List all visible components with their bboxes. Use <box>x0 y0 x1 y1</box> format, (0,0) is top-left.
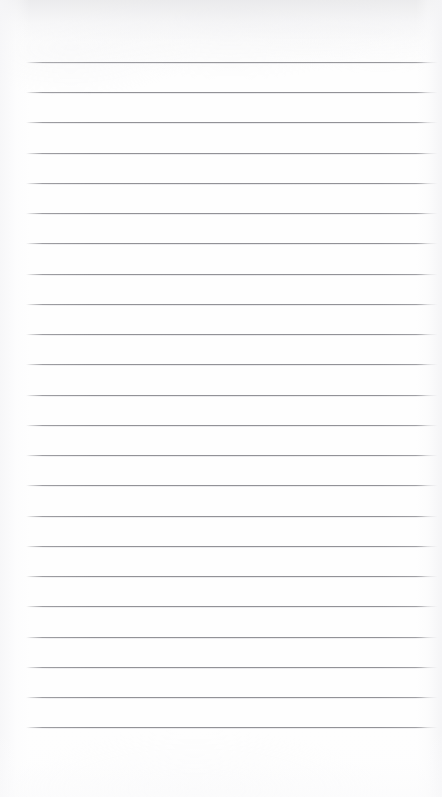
rule-line <box>26 334 438 335</box>
rule-line <box>26 304 438 305</box>
rule-line <box>26 183 438 184</box>
rule-line <box>26 727 438 728</box>
rule-line <box>26 122 438 123</box>
lined-paper-page <box>0 0 442 797</box>
rule-line <box>26 213 438 214</box>
rule-line <box>26 697 438 698</box>
ruled-lines-group <box>0 0 442 797</box>
rule-line <box>26 62 438 63</box>
rule-line <box>26 395 438 396</box>
rule-line <box>26 576 438 577</box>
rule-line <box>26 425 438 426</box>
rule-line <box>26 92 438 93</box>
rule-line <box>26 667 438 668</box>
rule-line <box>26 637 438 638</box>
rule-line <box>26 153 438 154</box>
rule-line <box>26 274 438 275</box>
rule-line <box>26 243 438 244</box>
rule-line <box>26 516 438 517</box>
rule-line <box>26 546 438 547</box>
rule-line <box>26 455 438 456</box>
rule-line <box>26 364 438 365</box>
rule-line <box>26 606 438 607</box>
rule-line <box>26 485 438 486</box>
